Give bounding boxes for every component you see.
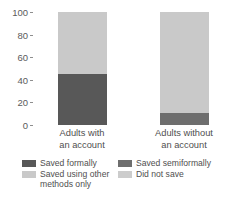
y-tick-mark-100 (30, 12, 33, 13)
y-tick-label-80: 80 (2, 31, 28, 41)
stacked-bar-chart: 100 80 60 40 20 0 Adults with an ac (0, 0, 230, 198)
legend-swatch-icon-saved-using-other-methods-only (22, 171, 36, 178)
x-axis-label-line1: Adults without (134, 128, 230, 140)
y-tick-mark-20 (30, 102, 33, 103)
y-tick-mark-80 (30, 35, 33, 36)
y-tick-mark-60 (30, 57, 33, 58)
y-tick-label-20: 20 (2, 98, 28, 108)
y-tick-label-100: 100 (2, 8, 28, 18)
legend-item-saved-semiformally: Saved semiformally (118, 158, 211, 168)
y-tick-mark-0 (30, 125, 33, 126)
legend-label-saved-semiformally: Saved semiformally (136, 158, 211, 168)
x-axis-label-adults-without-account: Adults without an account (134, 128, 230, 151)
y-tick-mark-40 (30, 80, 33, 81)
y-tick-label-40: 40 (2, 76, 28, 86)
legend-label-did-not-save: Did not save (136, 169, 184, 179)
bar-segment-saved-formally (58, 74, 107, 125)
x-axis-label-line2: an account (134, 140, 230, 152)
x-axis-label-line2: an account (32, 140, 132, 152)
x-axis-label-line1: Adults with (32, 128, 132, 140)
legend-item-did-not-save: Did not save (118, 169, 184, 179)
bar-adults-with-account (58, 12, 107, 125)
legend-label-saved-using-other-methods-only: Saved using other methods only (40, 169, 109, 189)
legend-item-saved-formally: Saved formally (22, 158, 97, 168)
bar-segment-saved-semiformally (160, 113, 209, 125)
legend-item-saved-using-other-methods-only: Saved using other methods only (22, 169, 117, 189)
y-tick-label-0: 0 (2, 121, 28, 131)
legend: Saved formally Saved semiformally Saved … (0, 158, 230, 198)
legend-label-saved-formally: Saved formally (40, 158, 97, 168)
plot-area: 100 80 60 40 20 0 Adults with an ac (0, 0, 230, 152)
legend-swatch-icon-saved-formally (22, 160, 36, 167)
legend-swatch-icon-saved-semiformally (118, 160, 132, 167)
x-axis-label-adults-with-account: Adults with an account (32, 128, 132, 151)
bar-adults-without-account (160, 12, 209, 125)
bar-segment-did-not-save (160, 12, 209, 113)
legend-swatch-icon-did-not-save (118, 171, 132, 178)
y-tick-label-60: 60 (2, 53, 28, 63)
bar-segment-saved-using-other-methods-only (58, 12, 107, 74)
